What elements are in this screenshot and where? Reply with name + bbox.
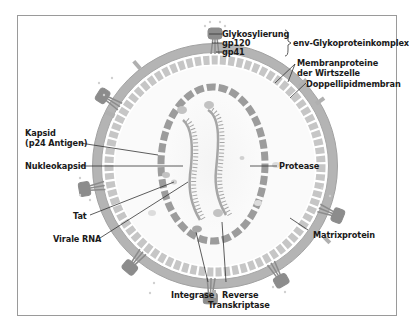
label-reverse-2: Transkriptase [208, 300, 270, 310]
label-gp41: gp41 [222, 47, 245, 57]
label-tat: Tat [73, 211, 87, 221]
label-virale-rna: Virale RNA [53, 234, 101, 244]
label-env-complex: env-Glykoproteinkomplex [293, 38, 409, 48]
label-protease: Protease [279, 161, 319, 171]
label-kapsid-2: (p24 Antigen) [25, 138, 87, 148]
label-doppellipidmembran: Doppellipidmembran [306, 79, 401, 89]
label-membranproteine-1: Membranproteine [297, 58, 378, 68]
label-nukleokapsid: Nukleokapsid [25, 161, 86, 171]
label-reverse-1: Reverse [222, 290, 259, 300]
label-integrase: Integrase [171, 290, 214, 300]
label-kapsid-1: Kapsid [25, 128, 56, 138]
label-membranproteine-2: der Wirtszelle [297, 68, 360, 78]
label-matrixprotein: Matrixprotein [313, 230, 375, 240]
